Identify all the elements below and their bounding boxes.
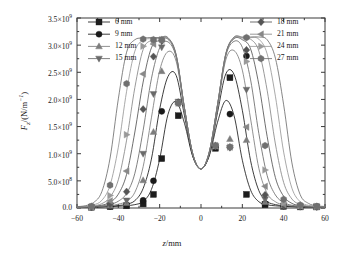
series-marker [243,137,250,143]
y-tick-label: 5.0×108 [48,176,72,187]
x-axis-label: z/mm [0,238,344,248]
series-18-mm [77,37,325,210]
series-marker [262,183,268,190]
series-line [77,70,325,208]
legend-label: 27 mm [277,53,298,62]
legend-label: 21 mm [277,29,298,38]
series-line [77,100,325,207]
series-15-mm [77,41,325,211]
legend-label: 12 mm [115,41,136,50]
series-marker [124,80,130,87]
legend-marker [96,56,103,62]
y-tick-label: 3.5×109 [48,13,72,24]
series-marker [213,142,219,149]
series-marker [227,144,233,151]
legend-item-6-mm[interactable] [88,19,110,25]
y-tick-label: 3.0×109 [48,40,72,51]
series-marker [150,191,156,197]
series-marker [227,75,233,81]
legend-marker [259,43,265,50]
series-marker [297,202,303,209]
x-tick-label: 60 [305,214,344,223]
series-marker [151,36,157,43]
x-tick-label: 0 [181,214,221,223]
figure-container: Fz/(N/m−1) z/mm 0.05.0×1081.0×1091.5×109… [0,0,344,263]
series-marker [262,142,268,149]
y-tick-label: 2.0×109 [48,94,72,105]
legend-marker [96,19,102,25]
y-tick-label: 1.5×109 [48,121,72,132]
y-axis-label-container: Fz/(N/m−1) [18,66,32,156]
series-line [77,37,325,207]
legend-label: 6 mm [115,17,133,26]
legend-item-12-mm[interactable] [88,43,110,49]
series-marker [175,113,181,119]
x-tick-label: −40 [98,214,138,223]
series-marker [140,197,146,203]
series-marker [159,36,165,43]
series-marker [281,196,287,203]
series-marker [243,87,250,93]
legend-label: 18 mm [277,17,298,26]
legend-label: 24 mm [277,41,298,50]
series-marker [89,203,95,210]
y-tick-label: 1.0×109 [48,149,72,160]
series-marker [243,124,249,131]
x-tick-label: −20 [140,214,180,223]
series-marker [107,182,113,189]
series-marker [159,156,165,162]
legend-item-18-mm[interactable] [250,18,272,25]
y-tick-label: 0.0 [63,203,73,212]
series-marker [227,111,233,117]
series-marker [140,36,146,43]
legend-label: 9 mm [115,29,133,38]
series-24-mm [77,36,325,210]
series-marker [150,178,156,184]
series-line [77,37,325,207]
y-tick-label: 2.5×109 [48,67,72,78]
y-axis-label: Fz/(N/m−1) [18,92,32,130]
series-21-mm [77,37,325,210]
legend-item-24-mm[interactable] [250,43,272,50]
series-marker [140,106,147,113]
x-tick-label: −60 [57,214,97,223]
series-marker [243,191,249,197]
series-marker [244,34,250,41]
series-marker [314,203,320,210]
legend-item-9-mm[interactable] [88,31,110,37]
series-line [77,41,325,208]
x-tick-label: 20 [222,214,262,223]
legend-marker [96,31,102,37]
series-marker [159,108,165,114]
legend-marker [258,55,264,62]
legend-label: 15 mm [115,53,136,62]
series-marker [123,168,129,175]
series-marker [150,92,157,98]
x-tick-label: 40 [264,214,304,223]
series-marker [140,71,146,78]
series-marker [175,100,181,107]
legend-marker [96,43,103,49]
legend-item-15-mm[interactable] [88,56,110,62]
series-marker [227,136,234,142]
series-marker [140,177,147,183]
